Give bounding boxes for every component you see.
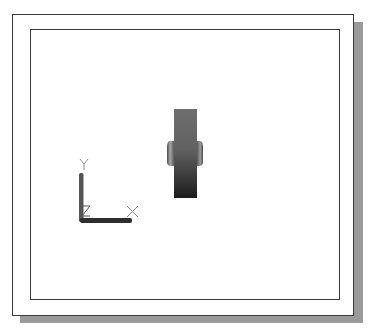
ucs-x-label-icon <box>127 206 138 217</box>
ucs-y-label-icon <box>80 159 88 170</box>
ucs-x-axis <box>80 218 132 223</box>
ucs-icon <box>0 0 371 330</box>
